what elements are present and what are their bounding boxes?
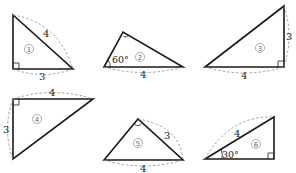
- triangle-4-shape: [13, 99, 93, 159]
- right-angle-mark-icon: [278, 61, 284, 67]
- side-length-bottom: 4: [241, 70, 247, 81]
- triangle-3: 3 4 3: [205, 6, 292, 81]
- triangle-5-shape: [104, 119, 183, 160]
- side-length-bottom: 4: [140, 69, 146, 80]
- side-length-hypotenuse: 4: [234, 128, 240, 139]
- right-angle-mark-icon: [135, 124, 142, 126]
- right-angle-mark-icon: [124, 35, 129, 37]
- right-angle-mark-icon: [13, 63, 19, 69]
- side-length-right: 3: [164, 130, 170, 141]
- triangle-number: 2: [138, 54, 142, 62]
- triangle-number: 1: [27, 46, 31, 54]
- triangle-1-shape: [13, 15, 73, 69]
- side-length-hypotenuse: 4: [43, 28, 49, 39]
- triangle-6: 30° 4 6: [205, 117, 274, 160]
- triangle-number: 4: [35, 116, 40, 124]
- triangle-2: 60° 4 2: [104, 32, 183, 80]
- angle-arc-icon: [108, 60, 110, 67]
- right-angle-mark-icon: [268, 153, 274, 159]
- side-length-bottom: 4: [140, 163, 146, 173]
- right-angle-mark-icon: [13, 99, 19, 105]
- side-length-bottom: 3: [39, 71, 45, 82]
- angle-label: 30°: [222, 149, 239, 160]
- side-length-left: 3: [3, 124, 9, 135]
- side-length-top: 4: [49, 87, 55, 98]
- triangle-1: 4 3 1: [13, 15, 73, 82]
- triangle-number: 5: [136, 140, 140, 148]
- triangle-number: 6: [254, 141, 259, 149]
- triangle-5: 3 4 5: [104, 119, 183, 173]
- triangles-diagram: 4 3 1 60° 4 2 3 4 3 4 3 4: [0, 0, 296, 173]
- triangle-number: 3: [258, 45, 262, 53]
- triangle-4: 4 3 4: [3, 87, 93, 159]
- triangle-3-shape: [205, 6, 284, 67]
- angle-label: 60°: [112, 54, 129, 65]
- side-length-right: 3: [286, 31, 292, 42]
